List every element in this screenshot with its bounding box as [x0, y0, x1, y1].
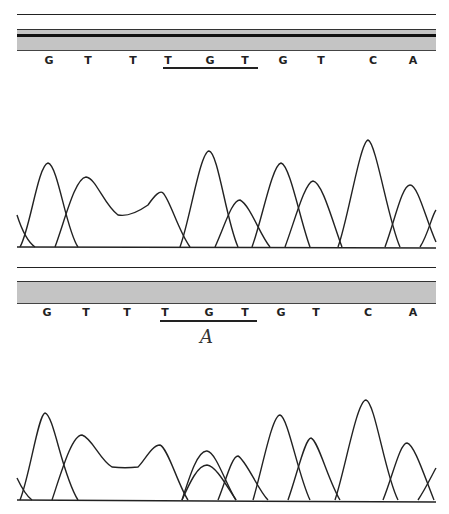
top-panel: G T T T G T G T C A: [0, 0, 449, 260]
chromatogram-bottom: [0, 260, 449, 514]
chromatogram-top: [0, 0, 449, 260]
bottom-panel: G T T T G T G T C A A: [0, 260, 449, 514]
